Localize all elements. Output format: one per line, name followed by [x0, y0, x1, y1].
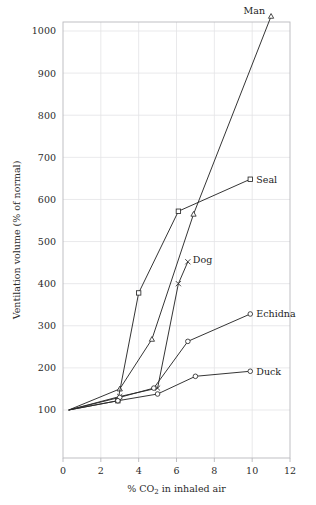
datapoint-duck-1 [116, 398, 121, 403]
datapoint-seal-3 [176, 209, 180, 213]
datapoint-echidna-3 [186, 339, 191, 344]
datapoint-duck-3 [193, 374, 198, 379]
datapoint-man-2 [149, 337, 154, 342]
datapoint-seal-4 [248, 177, 252, 181]
ytick-label-200: 200 [38, 362, 56, 373]
series-label-man: Man [244, 5, 266, 16]
y-axis-title: Ventilation volume (% of normal) [11, 161, 22, 321]
series-label-echidna: Echidna [256, 308, 296, 319]
xtick-label-12: 12 [284, 465, 296, 476]
series-line-seal [69, 179, 251, 410]
series-line-man [69, 16, 271, 410]
datapoint-duck-4 [248, 369, 253, 374]
ytick-label-500: 500 [38, 236, 56, 247]
ytick-label-300: 300 [38, 320, 56, 331]
chart-canvas: 1002003004005006007008009001000024681012… [0, 0, 316, 505]
ytick-label-1000: 1000 [32, 25, 56, 36]
ytick-label-100: 100 [38, 404, 56, 415]
xtick-label-6: 6 [173, 465, 179, 476]
datapoint-man-3 [191, 211, 196, 216]
xtick-label-4: 4 [136, 465, 142, 476]
datapoint-seal-2 [136, 291, 140, 295]
datapoint-echidna-2 [152, 386, 157, 391]
ytick-label-400: 400 [38, 278, 56, 289]
datapoint-duck-2 [155, 392, 160, 397]
series-label-dog: Dog [193, 254, 212, 265]
xtick-label-10: 10 [246, 465, 258, 476]
datapoint-echidna-4 [248, 312, 253, 317]
ytick-label-600: 600 [38, 194, 56, 205]
datapoint-man-4 [268, 14, 273, 19]
ytick-label-900: 900 [38, 68, 56, 79]
ytick-label-800: 800 [38, 110, 56, 121]
xtick-label-2: 2 [98, 465, 104, 476]
xtick-label-8: 8 [211, 465, 217, 476]
series-label-duck: Duck [256, 366, 281, 377]
ytick-label-700: 700 [38, 152, 56, 163]
x-axis-title: % CO2 in inhaled air [127, 483, 226, 496]
series-label-seal: Seal [256, 174, 277, 185]
ventilation-co2-chart: 1002003004005006007008009001000024681012… [0, 0, 316, 505]
xtick-label-0: 0 [60, 465, 66, 476]
datapoint-dog-4 [185, 259, 190, 264]
